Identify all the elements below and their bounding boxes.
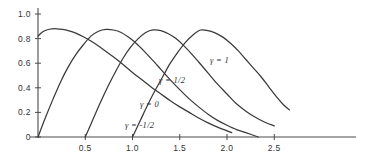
y-tick-label: 0.6: [18, 58, 31, 68]
x-tick-label: 1.5: [173, 143, 186, 153]
line-chart: 00.20.40.60.81.0 0.51.01.52.02.5 γ = 1γ …: [0, 0, 367, 159]
curve-label: γ = -1/2: [125, 120, 155, 130]
curve-label: γ = 1/2: [159, 75, 186, 85]
curve-label: γ = 1: [210, 55, 229, 65]
curve-label: γ = 0: [140, 99, 160, 109]
y-tick-label: 1.0: [18, 9, 31, 19]
x-tick-label: 2.5: [268, 143, 281, 153]
curve-gamma-1: [133, 30, 290, 137]
curve-gamma-1-2: [38, 29, 232, 133]
figure-container: 00.20.40.60.81.0 0.51.01.52.02.5 γ = 1γ …: [0, 0, 367, 159]
x-tick-label: 0.5: [79, 143, 92, 153]
y-tick-label: 0.8: [18, 34, 31, 44]
y-tick-label: 0.4: [18, 83, 31, 93]
y-tick-label: 0.2: [18, 107, 31, 117]
x-tick-label: 2.0: [220, 143, 233, 153]
x-tick-label: 1.0: [126, 143, 139, 153]
y-tick-label: 0: [26, 132, 31, 142]
